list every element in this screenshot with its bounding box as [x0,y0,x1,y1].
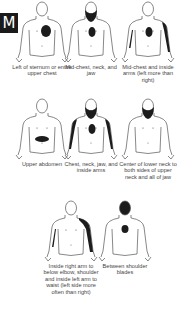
figure-caption: Chest, neck, jaw, and inside arms [61,161,121,174]
figure-caption: Mid-chest, neck, and jaw [61,64,121,77]
body-figure: Between shoulder blades [95,199,155,276]
body-figure: Mid-chest, neck, and jaw [61,0,121,77]
body-outline-icon [61,0,121,66]
figure-caption: Center of lower neck to both sides of up… [118,161,178,180]
body-outline-icon [61,97,121,163]
figure-caption: Between shoulder blades [95,263,155,276]
body-figure: Chest, neck, jaw, and inside arms [61,97,121,174]
body-outline-icon [118,0,178,66]
body-figure: Mid-chest and inside arms (left more tha… [118,0,178,83]
figure-caption: Mid-chest and inside arms (left more tha… [118,64,178,83]
body-figure: Center of lower neck to both sides of up… [118,97,178,180]
body-outline-icon [95,199,155,265]
body-figure: Inside right arm to below elbow, shoulde… [41,199,101,295]
figure-caption: Inside right arm to below elbow, shoulde… [41,263,101,295]
body-outline-icon [41,199,101,265]
body-outline-icon [118,97,178,163]
